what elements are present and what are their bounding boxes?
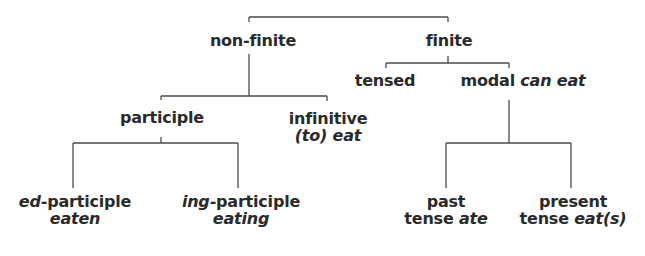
node-label: tensed bbox=[355, 71, 416, 90]
example-word: eat bbox=[333, 126, 362, 145]
node-label: infinitive bbox=[289, 110, 368, 127]
label-tense: tense bbox=[404, 209, 453, 228]
node-example: (to) eat bbox=[289, 127, 368, 144]
node-infinitive: infinitive (to) eat bbox=[289, 110, 368, 144]
node-label: non-finite bbox=[210, 31, 296, 50]
node-label: modal bbox=[461, 71, 515, 90]
node-participle: participle bbox=[120, 109, 204, 126]
node-label-line1: present bbox=[520, 193, 627, 210]
node-label: finite bbox=[426, 31, 473, 50]
label-italic: ing bbox=[182, 192, 210, 211]
node-modal: modal can eat bbox=[461, 72, 586, 89]
node-label-line1: past bbox=[404, 193, 487, 210]
node-finite: finite bbox=[426, 32, 473, 49]
label-tense: tense bbox=[520, 209, 569, 228]
node-past-tense: past tense ate bbox=[404, 193, 487, 227]
node-example: eaten bbox=[19, 210, 131, 227]
node-label: ing-participle bbox=[182, 193, 300, 210]
node-example: eat(s) bbox=[574, 209, 626, 228]
example-prefix: (to) bbox=[295, 126, 327, 145]
node-label-line2: tense ate bbox=[404, 210, 487, 227]
node-ed-participle: ed-participle eaten bbox=[19, 193, 131, 227]
node-tensed: tensed bbox=[355, 72, 416, 89]
node-non-finite: non-finite bbox=[210, 32, 296, 49]
label-italic: ed bbox=[19, 192, 41, 211]
node-example: ate bbox=[459, 209, 488, 228]
node-example: eating bbox=[182, 210, 300, 227]
node-label-line2: tense eat(s) bbox=[520, 210, 627, 227]
node-ing-participle: ing-participle eating bbox=[182, 193, 300, 227]
node-label: ed-participle bbox=[19, 193, 131, 210]
node-present-tense: present tense eat(s) bbox=[520, 193, 627, 227]
node-label: participle bbox=[120, 108, 204, 127]
node-example: can eat bbox=[520, 71, 585, 90]
